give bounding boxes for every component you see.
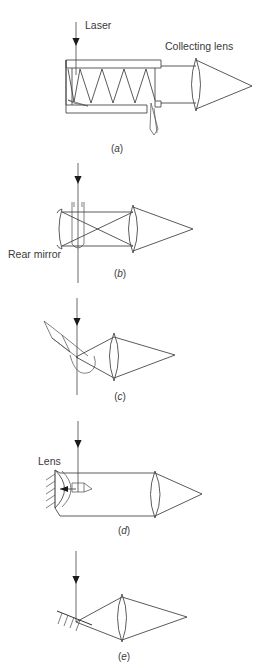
multipass-cell-body-a <box>66 60 161 113</box>
converging-cone-a <box>196 60 252 109</box>
cell-body-d <box>55 470 155 516</box>
figure-canvas: Laser Collecting lens <box>0 0 262 668</box>
panel-caption-d: (d) <box>118 525 130 536</box>
laser-input-beam-b <box>74 163 81 283</box>
fixed-mirror-hatch-d <box>46 470 55 508</box>
converging-cone-d <box>155 473 202 516</box>
panel-a: Laser Collecting lens <box>66 19 252 154</box>
sample-cell-c <box>70 355 95 373</box>
output-beam-a <box>161 66 196 103</box>
panel-caption-a: (a) <box>111 143 123 154</box>
optical-configurations-figure: Laser Collecting lens <box>0 0 262 668</box>
laser-input-beam-c <box>73 298 80 395</box>
tilted-mirror-c <box>44 321 70 352</box>
rear-mirror-label: Rear mirror <box>8 248 62 260</box>
panel-caption-c: (c) <box>114 391 126 402</box>
laser-input-beam-e <box>72 551 79 622</box>
laser-input-beam-d <box>74 421 81 492</box>
laser-label: Laser <box>85 19 112 31</box>
rear-mirror-b <box>57 209 62 249</box>
entry-prism-edge2-d <box>84 489 92 492</box>
panel-d: Lens <box>38 421 202 536</box>
collecting-lens-e <box>118 594 127 642</box>
laser-input-beam-a <box>72 22 79 75</box>
panel-e: (e) <box>57 551 187 662</box>
panel-caption-e: (e) <box>118 651 130 662</box>
converging-cone-b <box>133 207 193 251</box>
panel-b: Rear mirror (b) <box>8 163 193 283</box>
panel-caption-b: (b) <box>114 268 126 279</box>
collecting-lens-d <box>151 471 161 518</box>
zigzag-beam-path-a <box>74 69 155 103</box>
ray-bundle-e <box>76 597 187 640</box>
collecting-lens-label: Collecting lens <box>165 40 233 52</box>
collecting-lens-c <box>110 333 119 381</box>
exit-blade-edge-a <box>154 108 157 133</box>
panel-c: (c) <box>44 298 175 402</box>
reflecting-surface-hatch-e <box>57 611 92 631</box>
return-beam-arrow-d <box>60 486 76 492</box>
entry-prism-edge-d <box>84 483 92 489</box>
lens-label: Lens <box>38 455 61 467</box>
crossing-rays-b <box>62 212 133 246</box>
zigzag-first-leg-a <box>68 69 74 102</box>
